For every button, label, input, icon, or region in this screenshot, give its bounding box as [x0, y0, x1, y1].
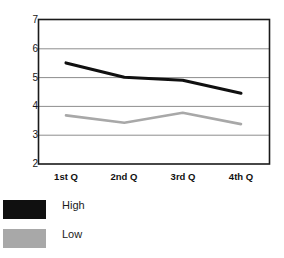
- legend-swatch-low: [3, 229, 46, 248]
- ytick-label-7: 7: [12, 15, 38, 25]
- xtick-label-3rd-q: 3rd Q: [153, 172, 213, 182]
- line-chart: 7 6 5 4 3 2 1st Q 2nd Q 3rd Q 4th Q High…: [0, 0, 284, 258]
- ytick-label-3: 3: [12, 130, 38, 140]
- legend-label-low: Low: [62, 228, 82, 241]
- chart-legend: High Low: [0, 196, 284, 252]
- xtick-label-2nd-q: 2nd Q: [94, 172, 154, 182]
- ytick-label-2: 2: [12, 159, 38, 169]
- ytick-label-4: 4: [12, 101, 38, 111]
- ytick-label-6: 6: [12, 44, 38, 54]
- legend-swatch-high: [3, 200, 46, 219]
- legend-label-high: High: [62, 199, 85, 212]
- legend-item-low: Low: [0, 224, 284, 252]
- series-line-low: [66, 113, 241, 124]
- ytick-label-5: 5: [12, 73, 38, 83]
- xtick-label-1st-q: 1st Q: [36, 172, 96, 182]
- legend-item-high: High: [0, 196, 284, 224]
- xtick-label-4th-q: 4th Q: [211, 172, 271, 182]
